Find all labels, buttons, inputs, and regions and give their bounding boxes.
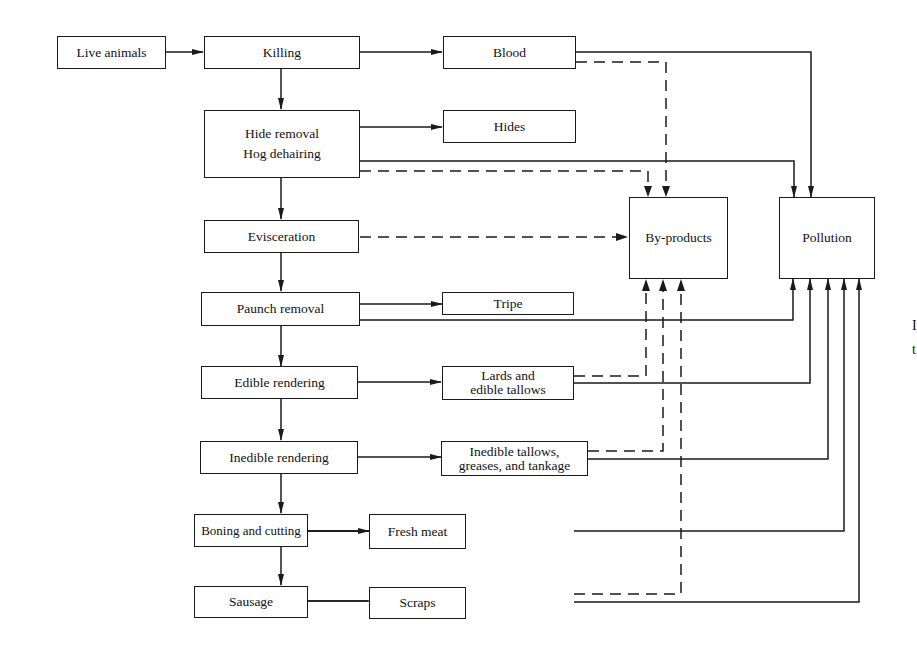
- node-label: Hide removal: [245, 124, 319, 144]
- node-label: By-products: [645, 231, 712, 245]
- node-label: Fresh meat: [388, 525, 448, 539]
- node-label: Paunch removal: [237, 302, 324, 316]
- node-label: Hides: [494, 120, 526, 134]
- node-hides: Hides: [443, 110, 576, 143]
- node-label: Pollution: [802, 231, 852, 245]
- node-label: Lards and: [481, 369, 535, 383]
- node-label: Evisceration: [248, 230, 315, 244]
- node-sausage: Sausage: [194, 586, 308, 618]
- node-inedible-tallows: Inedible tallows, greases, and tankage: [441, 441, 588, 476]
- cropped-text-fragment: t: [912, 342, 916, 358]
- node-label: Blood: [493, 46, 526, 60]
- node-label: edible tallows: [470, 383, 545, 397]
- node-label: Scraps: [400, 596, 436, 610]
- cropped-text-fragment: I: [912, 318, 917, 334]
- node-boning-cutting: Boning and cutting: [194, 514, 308, 547]
- node-blood: Blood: [443, 36, 576, 69]
- node-label: Inedible tallows,: [470, 445, 560, 459]
- node-pollution: Pollution: [779, 197, 875, 279]
- node-killing: Killing: [204, 36, 360, 69]
- node-scraps: Scraps: [369, 587, 466, 619]
- node-label: Tripe: [494, 297, 523, 311]
- node-label: Sausage: [229, 595, 273, 609]
- node-label: Killing: [263, 46, 301, 60]
- node-edible-rendering: Edible rendering: [201, 366, 358, 399]
- node-label: Hog dehairing: [243, 144, 321, 164]
- connector-layer: [0, 0, 917, 659]
- node-label: Boning and cutting: [201, 524, 301, 538]
- node-live-animals: Live animals: [57, 36, 166, 69]
- node-lards-edible-tallows: Lards and edible tallows: [442, 366, 574, 400]
- node-by-products: By-products: [629, 197, 728, 279]
- node-label: greases, and tankage: [459, 459, 570, 473]
- node-paunch-removal: Paunch removal: [201, 292, 360, 326]
- node-label: Live animals: [76, 46, 146, 60]
- node-label: Edible rendering: [234, 376, 324, 390]
- node-tripe: Tripe: [442, 292, 574, 315]
- node-inedible-rendering: Inedible rendering: [200, 441, 358, 474]
- node-hide-removal: Hide removal Hog dehairing: [204, 110, 360, 178]
- node-evisceration: Evisceration: [204, 220, 359, 253]
- node-fresh-meat: Fresh meat: [369, 514, 466, 549]
- node-label: Inedible rendering: [229, 451, 328, 465]
